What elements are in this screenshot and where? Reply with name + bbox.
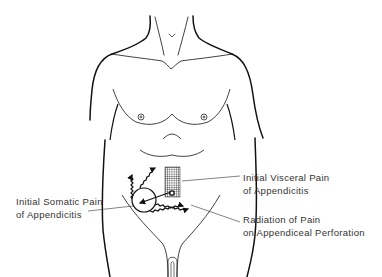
neck-outline	[112, 16, 232, 55]
appendicitis-pain-diagram: Initial Visceral Pain of Appendicitis In…	[0, 0, 382, 277]
somatic-pain-label-line1: Initial Somatic Pain	[16, 195, 103, 208]
arm-outlines	[90, 54, 263, 277]
visceral-pain-label: Initial Visceral Pain of Appendicitis	[243, 171, 329, 197]
radiation-leader-line	[191, 205, 240, 222]
visceral-pain-label-line2: of Appendicitis	[243, 184, 329, 197]
visceral-leader-line	[182, 176, 240, 181]
radiation-pain-label: Radiation of Pain on Appendiceal Perfora…	[243, 213, 365, 239]
chest-outline	[110, 89, 235, 140]
clavicle-lines	[112, 54, 232, 69]
visceral-pain-label-line1: Initial Visceral Pain	[243, 171, 329, 184]
radiation-pain-label-line2: on Appendiceal Perforation	[243, 226, 365, 239]
somatic-pain-label-line2: of Appendicitis	[16, 208, 103, 221]
abdomen-outline	[122, 134, 220, 277]
somatic-pain-circle	[132, 188, 156, 212]
somatic-pain-label: Initial Somatic Pain of Appendicitis	[16, 195, 103, 221]
radiation-pain-label-line1: Radiation of Pain	[243, 213, 365, 226]
